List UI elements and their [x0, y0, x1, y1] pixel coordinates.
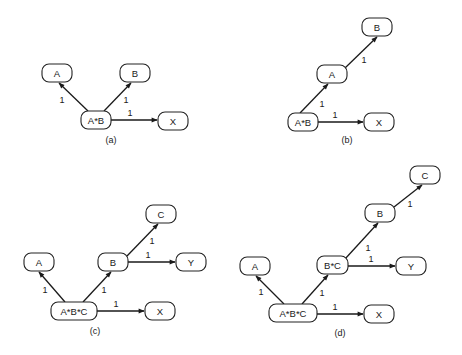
panel-caption: (c)	[90, 326, 101, 336]
node-label: X	[376, 117, 383, 128]
node-label: C	[158, 209, 165, 220]
node-a: A	[317, 65, 347, 83]
node-a: A	[240, 257, 270, 275]
edge-weight-label: 1	[258, 287, 263, 297]
node-x: X	[364, 305, 394, 323]
node-label: A	[252, 261, 259, 272]
node-a: A	[24, 253, 54, 271]
node-label: A*B*C	[61, 306, 88, 317]
node-label: B	[374, 22, 380, 33]
node-label: X	[157, 306, 164, 317]
node-c: C	[410, 166, 440, 184]
node-label: C	[422, 170, 429, 181]
panel-b: 111BAA*BX(b)	[288, 18, 394, 145]
node-label: A	[329, 69, 336, 80]
node-b: B	[362, 18, 392, 36]
panel-a: 111ABA*BX(a)	[42, 64, 188, 145]
node-ab: A*B	[81, 111, 111, 129]
node-label: B	[132, 68, 138, 79]
edge-weight-label: 1	[145, 250, 150, 260]
node-label: Y	[408, 261, 415, 272]
panel-d: 111111CBAB*CYA*B*CX(d)	[240, 166, 440, 338]
edge-weight-label: 1	[368, 254, 373, 264]
panel-caption: (a)	[106, 135, 117, 145]
panel-caption: (d)	[335, 328, 346, 338]
node-y: Y	[176, 253, 206, 271]
node-label: A*B*C	[280, 308, 307, 319]
node-abc: A*B*C	[269, 304, 317, 322]
edge-weight-label: 1	[407, 199, 412, 209]
node-bc: B*C	[317, 256, 348, 274]
node-ab: A*B	[288, 113, 318, 131]
edge-weight-label: 1	[42, 285, 47, 295]
node-label: X	[170, 116, 177, 127]
edge-weight-label: 1	[149, 236, 154, 246]
panels-layer: 111ABA*BX(a)111BAA*BX(b)11111CABYA*B*CX(…	[24, 18, 440, 338]
edge-weight-label: 1	[101, 285, 106, 295]
node-x: X	[145, 302, 175, 320]
node-label: B*C	[324, 260, 341, 271]
node-c: C	[146, 205, 176, 223]
edge-weight-label: 1	[361, 55, 366, 65]
node-label: A*B	[295, 117, 311, 128]
node-y: Y	[396, 257, 426, 275]
diagram-canvas: 111ABA*BX(a)111BAA*BX(b)11111CABYA*B*CX(…	[0, 0, 462, 355]
edge-weight-label: 1	[365, 243, 370, 253]
node-label: B	[110, 257, 116, 268]
node-label: B	[377, 208, 383, 219]
node-x: X	[364, 113, 394, 131]
node-b: B	[365, 204, 395, 222]
panel-caption: (b)	[342, 135, 353, 145]
node-a: A	[42, 64, 72, 82]
panel-c: 11111CABYA*B*CX(c)	[24, 205, 206, 336]
node-label: X	[376, 309, 383, 320]
edge-weight-label: 1	[332, 302, 337, 312]
edge-weight-label: 1	[113, 299, 118, 309]
node-abc: A*B*C	[51, 302, 97, 320]
node-label: Y	[188, 257, 195, 268]
node-b: B	[98, 253, 128, 271]
edge-abc-to-b	[83, 272, 111, 302]
edge-weight-label: 1	[332, 110, 337, 120]
node-label: A*B	[88, 115, 104, 126]
edge-weight-label: 1	[319, 99, 324, 109]
node-label: A	[54, 68, 61, 79]
edge-weight-label: 1	[123, 95, 128, 105]
node-b: B	[120, 64, 150, 82]
edge-weight-label: 1	[319, 288, 324, 298]
edge-weight-label: 1	[59, 95, 64, 105]
node-label: A	[36, 257, 43, 268]
node-x: X	[158, 112, 188, 130]
edge-weight-label: 1	[127, 108, 132, 118]
